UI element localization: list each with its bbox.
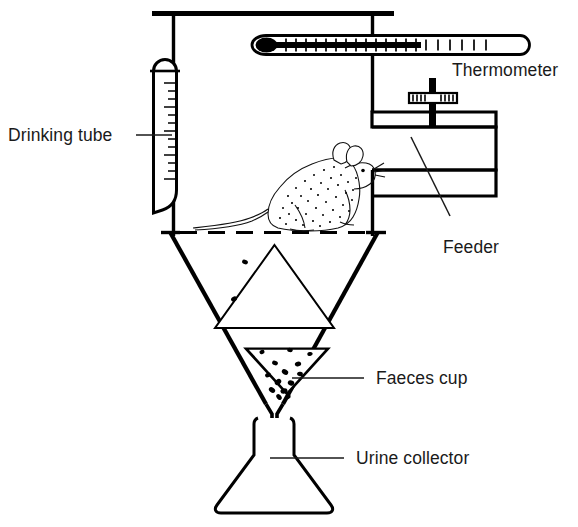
rodent-eye: [361, 169, 365, 173]
inner-separator-cone: [215, 245, 334, 328]
label-faeces-cup: Faeces cup: [376, 368, 467, 388]
graduated-drinking-tube: [150, 60, 180, 214]
flask-outline: [215, 418, 332, 513]
metabolic-cage-figure: Drinking tube Thermometer Feeder Faeces …: [0, 0, 578, 527]
feeder-body: [372, 127, 496, 170]
thermometer: [252, 36, 530, 55]
thermometer-mercury-column: [276, 42, 421, 48]
rodent-body: [268, 158, 360, 231]
leader-feeder: [411, 137, 450, 216]
label-feeder: Feeder: [443, 237, 499, 257]
thermometer-bulb: [256, 38, 278, 53]
label-urine-collector: Urine collector: [356, 448, 469, 468]
feeder: [372, 78, 496, 196]
label-drinking-tube: Drinking tube: [8, 125, 112, 145]
separating-funnel: [170, 232, 378, 444]
diagram-canvas: Drinking tube Thermometer Feeder Faeces …: [0, 0, 578, 527]
label-thermometer: Thermometer: [452, 60, 558, 80]
erlenmeyer-flask: [215, 418, 332, 513]
rodent: [193, 142, 385, 231]
